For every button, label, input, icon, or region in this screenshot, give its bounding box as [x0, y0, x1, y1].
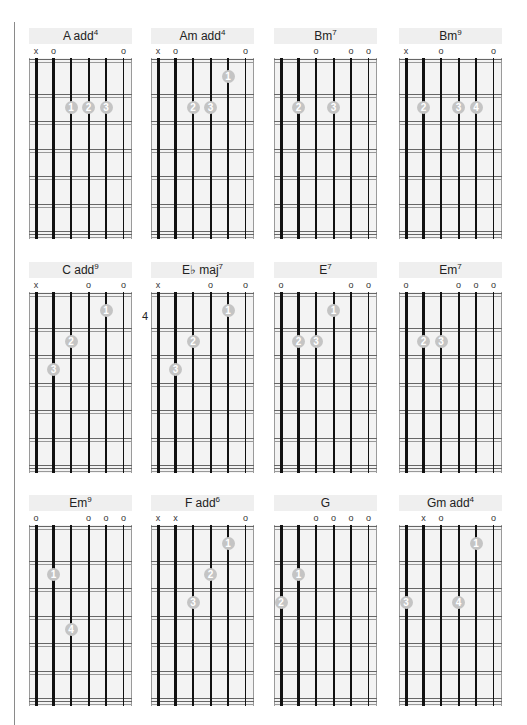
fret-line: [274, 204, 377, 208]
fret-line: [274, 468, 377, 472]
fret-line: [399, 204, 502, 208]
chord-title: G: [274, 495, 377, 511]
fret-line: [274, 176, 377, 180]
fret-line: [274, 293, 377, 297]
fret-line: [151, 438, 254, 442]
finger-dot: 1: [65, 101, 78, 114]
finger-dot: 3: [435, 335, 448, 348]
chord-name: E♭ maj: [182, 263, 219, 277]
open-string-marker: o: [436, 46, 446, 56]
fret-line: [399, 293, 502, 297]
muted-string-marker: x: [153, 280, 163, 290]
fret-line: [274, 94, 377, 98]
finger-dot: 1: [222, 537, 235, 550]
guitar-string: [245, 292, 246, 473]
fret-line: [274, 410, 377, 414]
guitar-string: [280, 58, 283, 239]
fret-line: [151, 643, 254, 647]
guitar-string: [70, 292, 72, 473]
fret-line: [29, 59, 132, 63]
guitar-string: [174, 58, 177, 239]
chord-title: Em9: [29, 495, 132, 511]
finger-dot: 2: [187, 335, 200, 348]
finger-dot: 1: [222, 70, 235, 83]
open-string-marker: o: [84, 280, 94, 290]
fret-line: [151, 588, 254, 592]
fret-line: [274, 643, 377, 647]
fret-line: [29, 204, 132, 208]
fretboard: 123: [29, 292, 132, 473]
chord-name: Em: [69, 496, 87, 510]
guitar-string: [475, 525, 477, 706]
open-string-marker: o: [119, 280, 129, 290]
fret-line: [399, 526, 502, 530]
finger-dot: 2: [82, 101, 95, 114]
chord-title: Em7: [399, 262, 502, 278]
guitar-string: [458, 292, 460, 473]
open-string-marker: o: [171, 46, 181, 56]
fret-line: [274, 328, 377, 332]
fret-line: [274, 149, 377, 153]
fretboard: 12: [274, 525, 377, 706]
guitar-string: [493, 58, 494, 239]
fretboard: 134: [399, 525, 502, 706]
fret-line: [151, 383, 254, 387]
guitar-string: [105, 58, 107, 239]
guitar-string: [192, 58, 194, 239]
fretboard: 23: [274, 58, 377, 239]
fretboard: 14: [29, 525, 132, 706]
finger-dot: 2: [275, 596, 288, 609]
chord-name: Bm: [314, 29, 332, 43]
guitar-string: [192, 525, 194, 706]
finger-dot: 3: [452, 101, 465, 114]
guitar-string: [368, 292, 369, 473]
open-string-marker: o: [436, 513, 446, 523]
guitar-string: [227, 525, 229, 706]
fret-line: [151, 410, 254, 414]
open-string-marker: o: [276, 280, 286, 290]
fret-line: [399, 410, 502, 414]
finger-dot: 3: [47, 363, 60, 376]
guitar-string: [422, 525, 425, 706]
open-string-marker: o: [49, 46, 59, 56]
fretboard: 123: [274, 292, 377, 473]
finger-dot: 4: [65, 623, 78, 636]
finger-dot: 1: [222, 304, 235, 317]
fret-line: [399, 149, 502, 153]
fret-line: [274, 234, 377, 238]
guitar-string: [123, 292, 124, 473]
chord-title: A add4: [29, 28, 132, 44]
fret-line: [274, 588, 377, 592]
chord-name: Gm add: [427, 496, 470, 510]
fret-line: [399, 616, 502, 620]
guitar-string: [493, 292, 494, 473]
chord-name: Am add: [180, 29, 221, 43]
guitar-string: [52, 525, 55, 706]
guitar-string: [157, 525, 160, 706]
muted-string-marker: x: [419, 513, 429, 523]
string-markers: xoo: [151, 46, 254, 56]
chord-extension: 4: [94, 28, 98, 37]
page-margin-line: [14, 22, 15, 725]
fret-line: [151, 701, 254, 705]
guitar-string: [350, 292, 352, 473]
guitar-string: [333, 58, 335, 239]
fretboard: 23: [399, 292, 502, 473]
open-string-marker: o: [311, 513, 321, 523]
string-markers: oooo: [29, 513, 132, 523]
fret-line: [399, 355, 502, 359]
chord-extension: 7: [219, 262, 223, 271]
guitar-string: [105, 292, 107, 473]
fret-line: [29, 94, 132, 98]
guitar-string: [157, 292, 160, 473]
fret-line: [399, 438, 502, 442]
chord-name: Bm: [439, 29, 457, 43]
chord-extension: 9: [94, 262, 98, 271]
string-markers: xoo: [151, 280, 254, 290]
fret-line: [29, 176, 132, 180]
guitar-string: [210, 525, 212, 706]
chord-extension: 6: [216, 495, 220, 504]
guitar-string: [333, 292, 335, 473]
finger-dot: 2: [187, 101, 200, 114]
guitar-string: [458, 525, 460, 706]
